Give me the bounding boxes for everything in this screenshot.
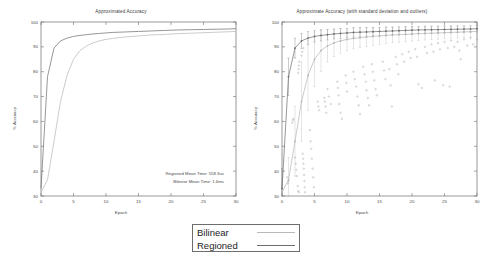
x-axis-label-right: Epoch [241,210,483,215]
svg-text:60: 60 [33,119,38,124]
legend-line-sample-regioned [257,245,295,246]
svg-text:80: 80 [274,69,279,74]
legend: Bilinear Regioned [192,224,300,252]
svg-text:25: 25 [201,199,206,204]
svg-text:0: 0 [40,199,43,204]
svg-text:5: 5 [313,199,316,204]
svg-text:60: 60 [274,119,279,124]
legend-label-bilinear: Bilinear [197,228,255,238]
svg-text:30: 30 [274,194,279,199]
figure-canvas: Approximated Accuracy 051015202530304050… [0,0,483,258]
y-axis-label-right: % Accuracy [253,107,258,130]
legend-item-regioned: Regioned [197,239,295,252]
legend-item-bilinear: Bilinear [197,226,295,239]
svg-text:0: 0 [281,199,284,204]
x-axis-label-left: Epoch [0,210,242,215]
annotation-regioned-mean-time: Regioned Mean Time: 558.3us [165,171,224,176]
svg-text:70: 70 [33,94,38,99]
plot-area-right: 05101520253030405060708090100 [241,0,483,222]
svg-text:90: 90 [274,44,279,49]
svg-text:100: 100 [272,20,280,25]
svg-text:80: 80 [33,69,38,74]
svg-text:10: 10 [104,199,109,204]
svg-text:10: 10 [345,199,350,204]
svg-text:20: 20 [410,199,415,204]
svg-text:100: 100 [31,20,39,25]
svg-text:40: 40 [33,169,38,174]
svg-text:30: 30 [33,194,38,199]
chart-panel-left: Approximated Accuracy 051015202530304050… [0,0,242,222]
annotation-bilinear-mean-time: Bilinear Mean Time: 1.6ms [173,179,224,184]
chart-panel-right: Approximate Accuracy (with standard devi… [241,0,483,222]
legend-line-sample-bilinear [257,232,295,233]
svg-text:5: 5 [72,199,75,204]
svg-text:15: 15 [377,199,382,204]
legend-label-regioned: Regioned [197,241,255,251]
svg-text:50: 50 [33,144,38,149]
svg-text:50: 50 [274,144,279,149]
svg-text:90: 90 [33,44,38,49]
plot-area-left: 05101520253030405060708090100 [0,0,242,222]
svg-text:30: 30 [475,199,480,204]
svg-text:15: 15 [136,199,141,204]
svg-text:20: 20 [169,199,174,204]
svg-text:70: 70 [274,94,279,99]
svg-text:30: 30 [234,199,239,204]
svg-text:25: 25 [442,199,447,204]
y-axis-label-left: % Accuracy [12,107,17,130]
svg-text:40: 40 [274,169,279,174]
